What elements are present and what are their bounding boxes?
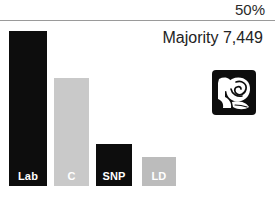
bar-label-lab: Lab [9,170,47,182]
bar-lab: Lab [9,31,47,186]
chart-screenshot: 50% Majority 7,449 Lab C SNP [0,0,275,200]
bar-label-snp: SNP [96,170,132,182]
bar-label-ld: LD [142,170,176,182]
bar-label-c: C [54,170,89,182]
bar-chart-plot: Lab C SNP LD [0,0,200,200]
bar-c: C [54,78,89,186]
bar-ld: LD [142,157,176,186]
bar-snp: SNP [96,144,132,186]
labour-rose-logo [212,70,256,115]
threshold-label: 50% [235,0,265,19]
rose-icon [212,70,256,115]
